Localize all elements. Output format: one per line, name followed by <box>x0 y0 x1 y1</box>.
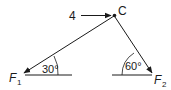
force-diagram: 4 C 30° F 1 60° F 2 <box>0 0 171 90</box>
applied-force-label: 4 <box>69 9 76 23</box>
f1-angle-label: 30° <box>42 63 59 75</box>
f1-subscript: 1 <box>17 78 22 87</box>
f2-subscript: 2 <box>162 80 167 89</box>
f1-label: F <box>9 71 17 85</box>
f2-label: F <box>154 73 162 87</box>
f2-angle-label: 60° <box>125 60 142 72</box>
f1-arrow <box>24 16 114 73</box>
point-c-label: C <box>118 4 127 18</box>
